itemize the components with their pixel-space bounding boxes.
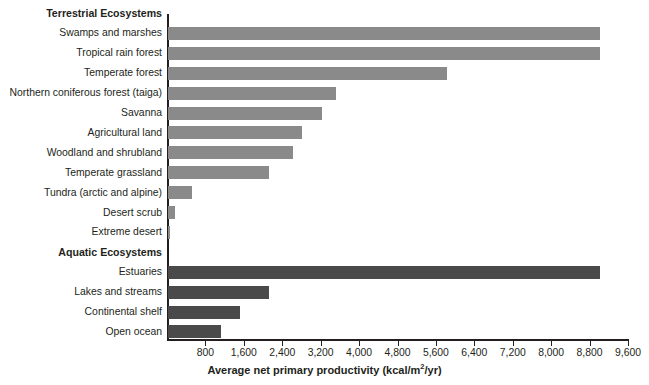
x-tick (590, 341, 591, 346)
x-tick-label: 6,400 (461, 347, 487, 359)
bar (168, 47, 600, 60)
x-tick-label: 2,400 (269, 347, 295, 359)
bar (168, 286, 269, 299)
x-tick-label: 8,800 (577, 347, 603, 359)
category-label: Temperate grassland (0, 167, 162, 179)
x-tick (628, 341, 629, 346)
category-label: Open ocean (0, 326, 162, 338)
category-label: Estuaries (0, 266, 162, 278)
x-tick (321, 341, 322, 346)
bar-chart: Terrestrial EcosystemsSwamps and marshes… (0, 0, 649, 385)
x-tick-label: 4,000 (346, 347, 372, 359)
x-tick (398, 341, 399, 346)
x-tick-label: 8,000 (538, 347, 564, 359)
category-label: Lakes and streams (0, 286, 162, 298)
x-tick-label: 3,200 (308, 347, 334, 359)
bar (168, 166, 269, 179)
bar (168, 67, 447, 80)
x-tick (436, 341, 437, 346)
category-label: Extreme desert (0, 226, 162, 238)
x-tick (551, 341, 552, 346)
x-tick (474, 341, 475, 346)
x-tick-label: 9,600 (615, 347, 641, 359)
x-tick-label: 4,800 (384, 347, 410, 359)
bar (168, 186, 192, 199)
x-axis-title: Average net primary productivity (kcal/m… (0, 364, 649, 376)
x-tick (244, 341, 245, 346)
x-tick-label: 800 (197, 347, 214, 359)
bar (168, 206, 175, 219)
category-label: Northern coniferous forest (taiga) (0, 87, 162, 99)
x-tick-label: 5,600 (423, 347, 449, 359)
category-label: Continental shelf (0, 306, 162, 318)
category-label: Agricultural land (0, 127, 162, 139)
plot-area: 8001,6002,4003,2004,0004,8005,6006,4007,… (167, 0, 629, 340)
bar (168, 325, 221, 338)
x-tick-label: 1,600 (231, 347, 257, 359)
x-tick-label: 7,200 (500, 347, 526, 359)
category-label: Tundra (arctic and alpine) (0, 187, 162, 199)
x-axis-title-main: Average net primary productivity (kcal/m (207, 364, 420, 376)
category-label-column: Terrestrial EcosystemsSwamps and marshes… (0, 0, 166, 340)
bar (168, 306, 240, 319)
category-label: Woodland and shrubland (0, 147, 162, 159)
category-label: Savanna (0, 107, 162, 119)
bar (168, 126, 302, 139)
category-label: Desert scrub (0, 207, 162, 219)
x-tick (513, 341, 514, 346)
x-tick (205, 341, 206, 346)
bar (168, 226, 170, 239)
group-header-aquatic: Aquatic Ecosystems (0, 246, 162, 258)
category-label: Temperate forest (0, 67, 162, 79)
bar (168, 27, 600, 40)
x-tick (359, 341, 360, 346)
x-tick (282, 341, 283, 346)
x-axis-title-tail: /yr) (425, 364, 442, 376)
group-header-terrestrial: Terrestrial Ecosystems (0, 7, 162, 19)
category-label: Tropical rain forest (0, 47, 162, 59)
bar (168, 146, 293, 159)
bar (168, 107, 322, 120)
category-label: Swamps and marshes (0, 27, 162, 39)
bar (168, 87, 336, 100)
bar (168, 266, 600, 279)
